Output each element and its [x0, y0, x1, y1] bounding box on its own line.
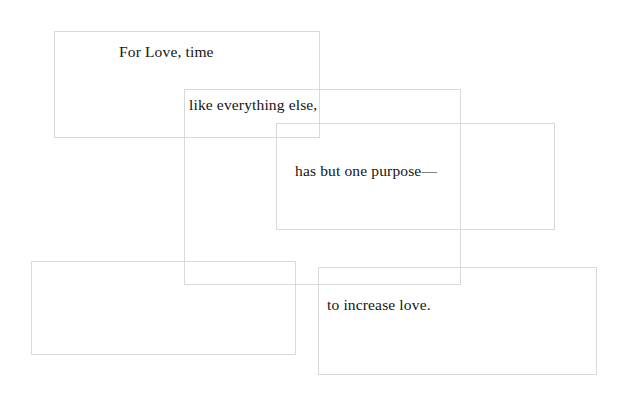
- text-frame-5: [318, 267, 597, 375]
- poem-line-2: like everything else,: [189, 97, 317, 113]
- poem-line-1: For Love, time: [119, 44, 214, 60]
- poem-line-3: has but one purpose—: [295, 163, 437, 179]
- poem-canvas: For Love, time like everything else, has…: [0, 0, 627, 405]
- text-frame-4-empty: [31, 261, 296, 355]
- poem-line-4: to increase love.: [327, 297, 431, 313]
